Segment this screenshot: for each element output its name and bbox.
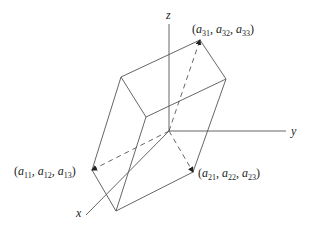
edge-5	[116, 117, 146, 211]
y-axis-label: y	[290, 124, 297, 138]
coordinate-axes	[86, 24, 286, 215]
edge-2	[121, 77, 146, 117]
x-axis-label: x	[75, 206, 82, 220]
parallelepiped-diagram: xyz(a11, a12, a13)(a21, a22, a23)(a31, a…	[0, 0, 311, 227]
row-1-label: (a11, a12, a13)	[14, 164, 76, 180]
edge-0	[121, 40, 200, 77]
edge-1	[200, 40, 226, 79]
row-3-label: (a31, a32, a33)	[192, 22, 254, 38]
row-vectors	[92, 40, 200, 172]
labels: xyz(a11, a12, a13)(a21, a22, a23)(a31, a…	[14, 8, 297, 220]
row-3-vector	[169, 40, 200, 131]
x-axis	[86, 131, 169, 215]
edge-7	[116, 172, 193, 211]
parallelepiped-edges	[92, 40, 226, 211]
edge-8	[193, 79, 226, 172]
row-2-vector	[169, 131, 193, 172]
z-axis-label: z	[165, 8, 171, 22]
edge-4	[92, 77, 121, 170]
row-2-label: (a21, a22, a23)	[198, 166, 260, 182]
edge-3	[146, 79, 226, 117]
